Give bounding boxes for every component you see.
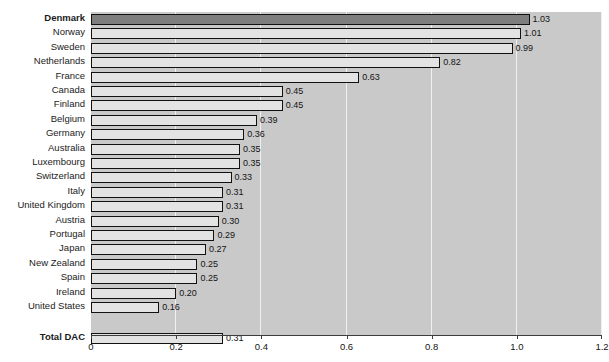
bar <box>91 201 223 212</box>
x-axis-tick-label: 0.2 <box>170 341 183 352</box>
x-axis-tick-label: 0 <box>88 341 93 352</box>
bar-row: 0.36 <box>91 128 602 142</box>
bar-value-label: 0.31 <box>226 331 244 345</box>
category-label: United Kingdom <box>17 198 85 212</box>
bar-row: 0.63 <box>91 71 602 85</box>
bar-value-label: 0.63 <box>362 70 380 84</box>
bar <box>91 14 530 25</box>
bar-value-label: 0.29 <box>217 228 235 242</box>
category-label: France <box>55 69 85 83</box>
x-axis-tick-label: 1.2 <box>595 341 608 352</box>
category-labels: DenmarkNorwaySwedenNetherlandsFranceCana… <box>0 12 88 335</box>
bar-row: 0.27 <box>91 243 602 257</box>
bar-row: 0.30 <box>91 215 602 229</box>
x-axis-tick-label: 1.0 <box>510 341 523 352</box>
bar <box>91 43 513 54</box>
bar-value-label: 0.30 <box>222 214 240 228</box>
bar-row: 0.35 <box>91 143 602 157</box>
x-axis-tick <box>432 335 433 339</box>
bar <box>91 273 197 284</box>
bar-value-label: 0.35 <box>243 156 261 170</box>
bar-row: 0.31 <box>91 186 602 200</box>
bar <box>91 216 219 227</box>
category-label: Total DAC <box>40 330 85 344</box>
bar-row: 0.31 <box>91 200 602 214</box>
bars-layer: 1.031.010.990.820.630.450.450.390.360.35… <box>91 12 602 335</box>
x-axis-tick-label: 0.8 <box>425 341 438 352</box>
x-axis-tick <box>517 335 518 339</box>
bar-row: 0.29 <box>91 229 602 243</box>
bar-row: 0.45 <box>91 85 602 99</box>
category-label: Spain <box>61 270 85 284</box>
bar <box>91 187 223 198</box>
category-label: Japan <box>59 241 85 255</box>
category-label: Portugal <box>50 227 85 241</box>
bar-value-label: 0.35 <box>243 142 261 156</box>
category-label: Australia <box>48 141 85 155</box>
bar <box>91 57 440 68</box>
category-label: Canada <box>52 83 85 97</box>
bar-value-label: 0.25 <box>200 257 218 271</box>
x-axis-tick <box>347 335 348 339</box>
bar-value-label: 0.33 <box>235 170 253 184</box>
x-axis-tick-label: 0.6 <box>340 341 353 352</box>
bar-value-label: 0.82 <box>443 55 461 69</box>
category-label: New Zealand <box>29 256 85 270</box>
bar-value-label: 0.36 <box>247 127 265 141</box>
bar-row: 0.33 <box>91 171 602 185</box>
category-label: Austria <box>55 213 85 227</box>
bar-value-label: 0.31 <box>226 199 244 213</box>
bar <box>91 72 359 83</box>
bar-value-label: 0.27 <box>209 242 227 256</box>
bar-row: 1.01 <box>91 27 602 41</box>
bar-value-label: 0.99 <box>516 41 534 55</box>
bar <box>91 259 197 270</box>
bar-row: 0.45 <box>91 99 602 113</box>
category-label: Belgium <box>51 112 85 126</box>
bar <box>91 244 206 255</box>
category-label: Sweden <box>51 40 85 54</box>
bar-chart: As % of GNI 1.031.010.990.820.630.450.45… <box>0 0 609 362</box>
x-axis-tick <box>176 335 177 339</box>
bar <box>91 230 214 241</box>
bar-value-label: 0.39 <box>260 113 278 127</box>
category-label: Germany <box>46 126 85 140</box>
bar-value-label: 0.16 <box>162 300 180 314</box>
x-axis-tick <box>601 335 602 339</box>
x-axis-tick <box>91 335 92 339</box>
bar-value-label: 1.01 <box>524 26 542 40</box>
bar <box>91 288 176 299</box>
category-label: Luxembourg <box>32 155 85 169</box>
bar <box>91 86 283 97</box>
x-axis-tick-label: 0.4 <box>255 341 268 352</box>
bar-value-label: 0.20 <box>179 286 197 300</box>
bar <box>91 302 159 313</box>
bar-row: 0.39 <box>91 114 602 128</box>
bar-row: 0.99 <box>91 42 602 56</box>
bar <box>91 28 521 39</box>
bar-row: 0.20 <box>91 287 602 301</box>
bar <box>91 100 283 111</box>
category-label: Netherlands <box>34 54 85 68</box>
bar-row: 0.25 <box>91 258 602 272</box>
bar-row: 1.03 <box>91 13 602 27</box>
bar-value-label: 0.31 <box>226 185 244 199</box>
bar-row: 0.25 <box>91 272 602 286</box>
bar-row: 0.35 <box>91 157 602 171</box>
bar <box>91 144 240 155</box>
category-label: Switzerland <box>36 169 85 183</box>
chart-title: As % of GNI <box>0 0 609 2</box>
bar-value-label: 0.45 <box>286 84 304 98</box>
bar-value-label: 1.03 <box>533 12 551 26</box>
category-label: Norway <box>53 25 85 39</box>
bar <box>91 129 244 140</box>
bar-row: 0.16 <box>91 301 602 315</box>
category-label: Denmark <box>44 11 85 25</box>
bar <box>91 115 257 126</box>
bar-row: 0.82 <box>91 56 602 70</box>
bar <box>91 172 232 183</box>
category-label: Italy <box>68 184 85 198</box>
category-label: Finland <box>54 97 85 111</box>
bar-value-label: 0.45 <box>286 98 304 112</box>
bar <box>91 158 240 169</box>
